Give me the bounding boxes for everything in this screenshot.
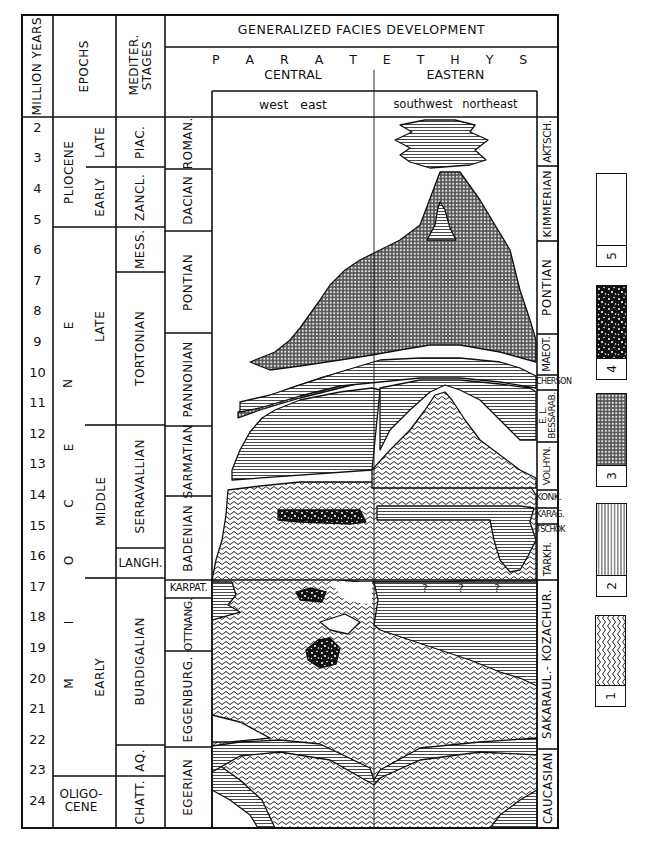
uncertainty-mark: ?	[456, 582, 466, 595]
eastern-stage-sakaraulian-kozachurian: SAKARAUL.- KOZACHUR.	[537, 580, 558, 749]
med-stage-messinian: MESS.	[116, 227, 165, 272]
med-stage-burdigalian: BURDIGALIAN	[116, 578, 165, 745]
uncertainty-mark: ?	[420, 582, 430, 595]
central-stage-pannonian: PANNONIAN	[165, 333, 212, 426]
epoch-miocene-letter: N	[53, 368, 85, 398]
med-stage-langhian: LANGH.	[116, 556, 165, 570]
central-stage-dacian: DACIAN	[165, 169, 212, 231]
tick-7: 7	[22, 273, 53, 288]
tick-20: 20	[22, 671, 53, 686]
uncertainty-mark: ?	[492, 582, 502, 595]
legend-number: 3	[597, 465, 626, 486]
wavy-swatch	[596, 616, 625, 685]
header-mediter-stages: MEDITER. STAGES	[116, 15, 165, 117]
tick-22: 22	[22, 732, 53, 747]
legend-number: 5	[597, 245, 626, 266]
tick-15: 15	[22, 518, 53, 533]
speckled-swatch	[597, 286, 626, 358]
tick-8: 8	[22, 303, 53, 318]
legend-number: 2	[597, 575, 626, 596]
tick-4: 4	[22, 181, 53, 196]
central-stage-romanian: ROMAN.	[165, 117, 212, 169]
epoch-miocene-letter: E	[53, 310, 85, 340]
tick-24: 24	[22, 793, 53, 808]
central-stage-egerian: EGERIAN	[165, 747, 212, 828]
legend-item-4: 4	[596, 285, 627, 380]
tick-21: 21	[22, 701, 53, 716]
header-central: CENTRAL	[212, 67, 374, 82]
eastern-stage-caucasian: CAUCASIAN	[537, 749, 558, 828]
epoch-miocene-letter: M	[53, 668, 85, 698]
header-eastern: EASTERN	[374, 67, 537, 82]
eastern-stage-volhynian: VOLHYN.	[537, 442, 558, 490]
eastern-stage-pontian: PONTIAN	[537, 241, 558, 334]
epoch-miocene-middle: MIDDLE	[86, 425, 116, 578]
tick-3: 3	[22, 150, 53, 165]
eastern-stage-karaganian: KARAG.	[536, 509, 559, 519]
central-stage-karpatian: KARPAT.	[165, 582, 212, 593]
header-paratethys: P A R A T E T H Y S	[212, 52, 537, 67]
legend-number: 4	[597, 358, 626, 379]
lines-swatch	[597, 504, 626, 575]
header-eastern-direction: southwest northeast	[374, 97, 537, 111]
grid-swatch	[597, 394, 626, 465]
epoch-oligocene: OLIGO-CENE	[56, 788, 106, 813]
legend-item-2: 2	[596, 503, 627, 597]
epoch-pliocene: PLIOCENE	[53, 117, 86, 227]
legend-number: 1	[596, 685, 625, 706]
eastern-stage-kimmerian: KIMMERIAN	[537, 166, 558, 241]
eastern-stage-tschokrakian: TSCHOK	[536, 525, 559, 534]
tick-11: 11	[22, 395, 53, 410]
header-epochs: EPOCHS	[53, 15, 116, 117]
tick-2: 2	[22, 120, 53, 135]
med-stage-chattian: CHATT.	[116, 776, 165, 828]
tick-16: 16	[22, 548, 53, 563]
epoch-pliocene-late: LATE	[86, 117, 116, 167]
tick-5: 5	[22, 212, 53, 227]
med-stage-piacenzian: PIAC.	[116, 117, 165, 167]
epoch-pliocene-early: EARLY	[86, 167, 116, 227]
epoch-miocene-letter: I	[53, 607, 85, 637]
tick-9: 9	[22, 334, 53, 349]
header-central-direction: west east	[212, 97, 374, 112]
eastern-stage-chersonian: CHERSON	[536, 377, 559, 386]
tick-13: 13	[22, 456, 53, 471]
tick-23: 23	[22, 762, 53, 777]
med-stage-serravallian: SERRAVALLIAN	[116, 425, 165, 548]
epoch-miocene-early: EARLY	[86, 578, 116, 776]
header-million-years: MILLION YEARS	[22, 15, 53, 117]
central-stage-pontian: PONTIAN	[165, 231, 212, 333]
tick-10: 10	[22, 365, 53, 380]
central-stage-badenian: BADENIAN	[165, 496, 212, 580]
header-title: GENERALIZED FACIES DEVELOPMENT	[165, 22, 558, 37]
med-stage-aquitanian: AQ.	[116, 745, 165, 776]
eastern-stage-bessarabian: E. L. BESSARAB.	[537, 390, 558, 442]
legend-item-1: 1	[595, 615, 626, 707]
epoch-miocene-late: LATE	[86, 227, 116, 425]
med-stage-zanclean: ZANCL.	[116, 167, 165, 227]
tick-19: 19	[22, 640, 53, 655]
central-stage-sarmatian: SARMATIAN	[165, 426, 212, 496]
epoch-miocene-letter: C	[53, 488, 85, 518]
tick-17: 17	[22, 579, 53, 594]
facies-shapes	[212, 120, 537, 828]
central-stage-ottnangian: OTTNANG.	[165, 598, 212, 651]
epoch-miocene-letter: E	[53, 432, 85, 462]
central-stage-eggenburgian: EGGENBURG.	[165, 651, 212, 747]
legend-item-5: 5	[596, 173, 627, 267]
tick-6: 6	[22, 242, 53, 257]
eastern-stage-maeotian: MAEOT.	[537, 334, 558, 375]
eastern-stage-tarkhanian: TARKH.	[537, 538, 558, 580]
med-stage-tortonian: TORTONIAN	[116, 272, 165, 425]
tick-14: 14	[22, 487, 53, 502]
eastern-stage-akchagylian: AKTSCH.	[537, 117, 558, 166]
epoch-miocene-letter: O	[53, 545, 85, 575]
legend-item-3: 3	[596, 393, 627, 487]
tick-12: 12	[22, 426, 53, 441]
eastern-stage-konkian: KONK.	[536, 492, 559, 502]
tick-18: 18	[22, 609, 53, 624]
